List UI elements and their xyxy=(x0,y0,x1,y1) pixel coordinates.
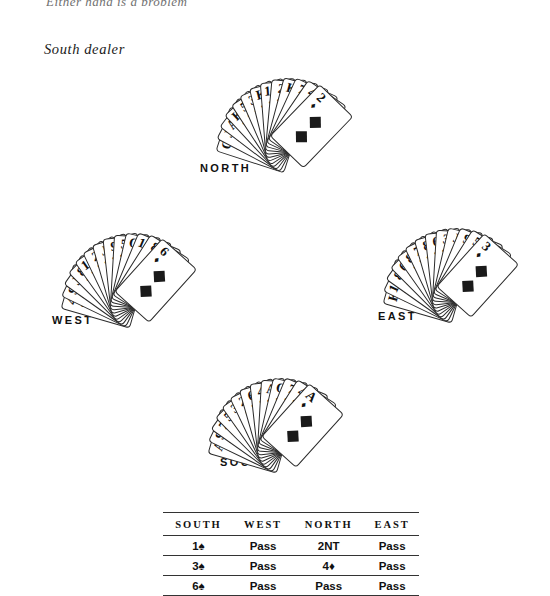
card-pip xyxy=(309,117,320,128)
bid-cell: 6♠ xyxy=(163,576,234,596)
bid-cell: Pass xyxy=(365,576,419,596)
dealer-note: South dealer xyxy=(44,41,125,58)
bid-cell: 2NT xyxy=(292,536,365,556)
bidding-row: 1♠Pass2NTPass xyxy=(163,536,419,556)
bidding-column-header: EAST xyxy=(365,513,419,536)
bid-cell: Pass xyxy=(365,556,419,576)
bid-cell: Pass xyxy=(292,576,365,596)
bidding-column-header: WEST xyxy=(234,513,292,536)
bid-cell: 3♠ xyxy=(163,556,234,576)
clipped-header-text: Either hand is a problem xyxy=(46,0,376,6)
bid-cell: 1♠ xyxy=(163,536,234,556)
card-pip xyxy=(462,281,474,293)
bidding-body: 1♠Pass2NTPass3♠Pass4♦Pass6♠PassPassPass xyxy=(163,536,419,596)
card-pip xyxy=(153,271,165,283)
bid-cell: Pass xyxy=(234,556,292,576)
card-pip xyxy=(295,131,306,142)
card-pip xyxy=(140,286,152,298)
position-label-north: NORTH xyxy=(200,162,251,174)
bidding-column-header: NORTH xyxy=(292,513,365,536)
card-pip xyxy=(287,431,299,443)
bid-cell: Pass xyxy=(234,536,292,556)
bidding-row: 3♠Pass4♦Pass xyxy=(163,556,419,576)
bidding-header-row: SOUTHWESTNORTHEAST xyxy=(163,513,419,536)
bid-cell: 4♦ xyxy=(292,556,365,576)
bidding-table: SOUTHWESTNORTHEAST 1♠Pass2NTPass3♠Pass4♦… xyxy=(163,512,419,596)
card-pip xyxy=(475,266,487,278)
bid-cell: Pass xyxy=(365,536,419,556)
bidding-column-header: SOUTH xyxy=(163,513,234,536)
bidding-row: 6♠PassPassPass xyxy=(163,576,419,596)
card-pip xyxy=(300,416,312,428)
bid-cell: Pass xyxy=(234,576,292,596)
